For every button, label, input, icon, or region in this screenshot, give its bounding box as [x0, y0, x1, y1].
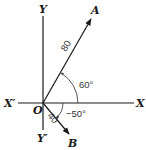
origin-label: O — [33, 104, 43, 117]
angle-arc-60 — [61, 73, 79, 103]
y-prime-axis-label: Y′ — [37, 132, 48, 145]
angle-b-label: −50° — [66, 108, 86, 119]
angle-a-label: 60° — [79, 79, 94, 90]
vector-b-label: B — [67, 137, 77, 150]
vector-diagram: Y Y′ X X′ O A B 80 40 60° −50° — [0, 0, 146, 150]
vector-a-label: A — [90, 4, 100, 17]
vector-a-arrow — [43, 19, 91, 103]
x-axis-label: X — [135, 97, 145, 110]
vector-b-magnitude: 40 — [45, 110, 60, 125]
y-axis-label: Y — [39, 3, 48, 16]
vector-a-magnitude: 80 — [58, 38, 73, 53]
x-prime-axis-label: X′ — [3, 97, 16, 110]
